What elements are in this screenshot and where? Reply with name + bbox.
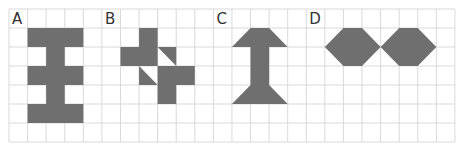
- shape-piece: [28, 28, 84, 47]
- shape-piece: [28, 66, 84, 85]
- panel-label-d: D: [309, 10, 321, 28]
- shape-piece: [251, 47, 270, 85]
- panel-label-c: C: [216, 10, 226, 28]
- shape-piece: [158, 66, 195, 85]
- shape-piece: [120, 47, 157, 66]
- shape-piece: [139, 28, 158, 47]
- shape-piece: [46, 85, 65, 104]
- shapes-grid-figure: A B C D: [0, 0, 460, 149]
- panel-label-a: A: [12, 10, 23, 28]
- panel-b: B: [105, 10, 195, 104]
- shape-piece: [232, 28, 288, 47]
- shape-piece: [325, 28, 381, 66]
- shape-piece: [139, 66, 158, 85]
- shape-piece: [381, 28, 437, 66]
- panel-c: C: [216, 10, 287, 104]
- shape-a: [28, 28, 84, 123]
- shape-piece: [28, 104, 84, 123]
- shape-piece: [232, 85, 288, 104]
- shape-b: [120, 28, 194, 104]
- panel-label-b: B: [105, 10, 115, 28]
- shape-piece: [158, 85, 177, 104]
- shape-piece: [158, 47, 177, 66]
- shape-piece: [46, 47, 65, 66]
